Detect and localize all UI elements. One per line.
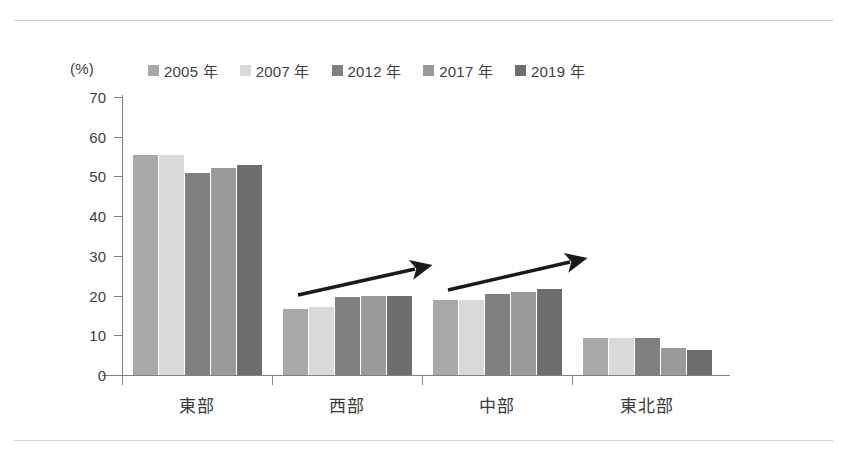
bar: [609, 338, 634, 375]
legend-label-2007: 2007 年: [256, 60, 310, 81]
x-axis-line: [102, 375, 730, 376]
legend-item-2007: 2007 年: [240, 60, 310, 81]
bar: [583, 338, 608, 375]
y-axis-tick: [114, 176, 122, 177]
legend-item-2012: 2012 年: [332, 60, 402, 81]
bar: [635, 338, 660, 375]
bar: [211, 168, 236, 375]
legend-item-2017: 2017 年: [423, 60, 493, 81]
bar-group: [133, 97, 262, 375]
top-divider: [14, 20, 833, 21]
y-axis-unit-label: (%): [70, 60, 94, 77]
bar: [237, 165, 262, 375]
x-axis-category-label: 西部: [272, 392, 422, 417]
y-axis-label: 40: [62, 208, 106, 225]
x-axis-category-label: 中部: [422, 392, 572, 417]
bar: [185, 173, 210, 375]
bar-chart: (%) 2005 年 2007 年 2012 年 2017 年 2019 年: [0, 26, 847, 436]
legend-swatch-icon-2012: [332, 65, 343, 76]
y-axis-label: 70: [62, 89, 106, 106]
legend-label-2012: 2012 年: [348, 60, 402, 81]
chart-page: (%) 2005 年 2007 年 2012 年 2017 年 2019 年: [0, 0, 847, 463]
legend-swatch-icon-2007: [240, 65, 251, 76]
x-axis-separator-tick: [422, 376, 423, 385]
bottom-divider: [14, 440, 833, 441]
bar-group: [283, 97, 412, 375]
chart-legend: 2005 年 2007 年 2012 年 2017 年 2019 年: [148, 60, 585, 81]
x-axis-separator-tick: [572, 376, 573, 385]
x-axis-category-label: 東部: [122, 392, 272, 417]
bar: [511, 292, 536, 375]
y-axis-tick: [114, 335, 122, 336]
bar: [537, 289, 562, 375]
y-axis-label: 50: [62, 168, 106, 185]
y-axis-tick: [114, 296, 122, 297]
legend-item-2005: 2005 年: [148, 60, 218, 81]
x-axis-origin-tick: [122, 376, 123, 385]
bar: [159, 155, 184, 375]
bar: [661, 348, 686, 375]
legend-label-2005: 2005 年: [164, 60, 218, 81]
bar: [459, 300, 484, 375]
y-axis-label: 20: [62, 287, 106, 304]
bar: [309, 307, 334, 375]
y-axis-tick: [114, 256, 122, 257]
y-axis-tick: [114, 97, 122, 98]
bar: [335, 297, 360, 375]
bar: [283, 309, 308, 375]
bar: [133, 155, 158, 375]
bar: [433, 300, 458, 375]
x-axis-separator-tick: [272, 376, 273, 385]
legend-swatch-icon-2019: [515, 65, 526, 76]
legend-swatch-icon-2017: [423, 65, 434, 76]
legend-item-2019: 2019 年: [515, 60, 585, 81]
legend-label-2017: 2017 年: [439, 60, 493, 81]
bar-group: [433, 97, 562, 375]
bar-group: [583, 97, 712, 375]
legend-swatch-icon-2005: [148, 65, 159, 76]
plot-area: [122, 97, 722, 375]
y-axis-tick: [114, 216, 122, 217]
y-axis-label: 0: [62, 367, 106, 384]
y-axis-label: 10: [62, 327, 106, 344]
y-axis-tick: [114, 137, 122, 138]
y-axis-label: 60: [62, 128, 106, 145]
y-axis-tick: [114, 375, 122, 376]
bar: [485, 294, 510, 375]
x-axis-category-label: 東北部: [572, 392, 722, 417]
legend-label-2019: 2019 年: [531, 60, 585, 81]
y-axis-label: 30: [62, 247, 106, 264]
bar: [387, 296, 412, 375]
bar: [687, 350, 712, 375]
bar: [361, 296, 386, 375]
